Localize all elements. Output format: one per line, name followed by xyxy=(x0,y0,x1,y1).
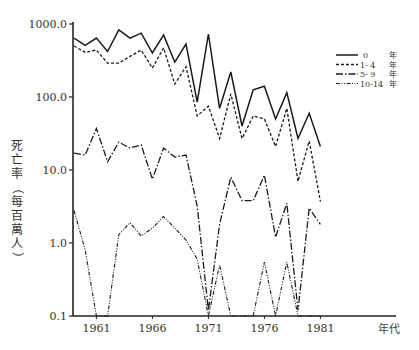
x-tick-label: 1981 xyxy=(306,322,334,335)
y-label-char: 率 xyxy=(11,166,23,181)
mortality-chart: 1000.0100.010.01.00.1 196119661971197619… xyxy=(0,0,419,350)
series-line-dashed xyxy=(74,46,320,202)
y-axis: 1000.0100.010.01.00.1 xyxy=(29,18,74,323)
y-label-char: 死 xyxy=(11,139,23,153)
y-label-char: 百 xyxy=(11,209,23,223)
x-tick-label: 1976 xyxy=(250,322,278,335)
x-axis: 19611966197119761981 xyxy=(73,316,396,335)
legend: 0年1- 4年5- 9年10-14年 xyxy=(336,50,397,89)
plot-area xyxy=(74,30,320,316)
y-tick-label: 0.1 xyxy=(50,310,68,323)
y-label-char: 萬 xyxy=(11,223,23,237)
y-tick-label: 1000.0 xyxy=(29,18,68,31)
y-label-char: （ xyxy=(10,182,24,194)
legend-age-label: 0 xyxy=(363,51,368,60)
y-tick-label: 10.0 xyxy=(43,164,68,177)
y-label-char: ） xyxy=(10,252,24,264)
y-tick-label: 1.0 xyxy=(50,237,68,250)
legend-unit-label: 年 xyxy=(389,69,397,79)
legend-unit-label: 年 xyxy=(389,50,397,60)
legend-age-label: 5- 9 xyxy=(360,70,375,79)
x-tick-label: 1971 xyxy=(194,322,222,335)
legend-age-label: 1- 4 xyxy=(360,61,375,70)
series-line-dashdotdot xyxy=(74,210,320,316)
y-tick-label: 100.0 xyxy=(36,91,68,104)
legend-age-label: 10-14 xyxy=(360,80,383,89)
x-tick-label: 1966 xyxy=(138,322,166,335)
legend-unit-label: 年 xyxy=(389,60,397,70)
y-label-char: 亡 xyxy=(11,153,23,167)
y-label-char: 人 xyxy=(11,237,23,251)
x-tick-label: 1961 xyxy=(82,322,110,335)
legend-unit-label: 年 xyxy=(389,79,397,89)
x-axis-label: 年代 xyxy=(378,322,400,336)
series-line-dashdot xyxy=(74,129,320,311)
y-label-char: 每 xyxy=(11,194,23,209)
series-line-solid xyxy=(74,30,320,147)
y-axis-label: 死亡率（每百萬人） xyxy=(10,139,24,264)
